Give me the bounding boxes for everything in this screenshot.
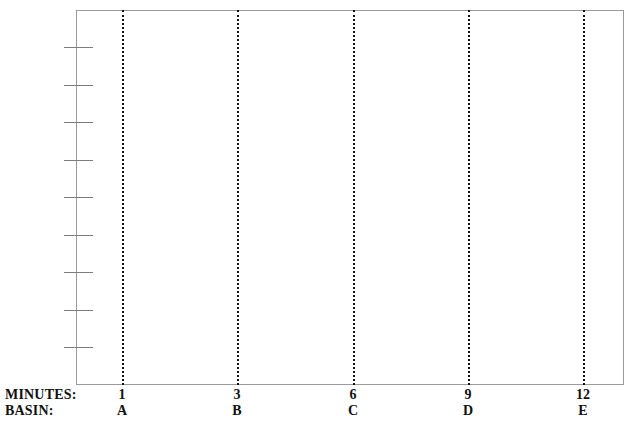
vertical-gridline [468, 10, 470, 385]
y-axis-tick [64, 47, 93, 48]
y-axis-tick [64, 122, 93, 123]
y-axis-tick [64, 272, 93, 273]
y-axis-tick [64, 160, 93, 161]
x-axis-label-block: MINUTES: BASIN: 1A3B6C9D12E [0, 387, 642, 427]
minutes-tick-label: 9 [448, 387, 488, 403]
chart-figure: MINUTES: BASIN: 1A3B6C9D12E [0, 0, 642, 436]
minutes-tick-label: 6 [333, 387, 373, 403]
vertical-gridline [353, 10, 355, 385]
minutes-tick-label: 3 [217, 387, 257, 403]
basin-tick-label: A [102, 403, 142, 419]
basin-tick-label: B [217, 403, 257, 419]
plot-area [76, 10, 624, 385]
minutes-row-label: MINUTES: [5, 387, 77, 403]
y-axis-tick [64, 197, 93, 198]
y-axis-tick [64, 347, 93, 348]
y-axis-tick [64, 85, 93, 86]
y-axis-tick [64, 235, 93, 236]
y-axis-tick [64, 310, 93, 311]
vertical-gridline [583, 10, 585, 385]
basin-row-label: BASIN: [5, 403, 54, 419]
minutes-tick-label: 12 [563, 387, 603, 403]
basin-tick-label: D [448, 403, 488, 419]
vertical-gridline [237, 10, 239, 385]
vertical-gridline [122, 10, 124, 385]
minutes-tick-label: 1 [102, 387, 142, 403]
basin-tick-label: C [333, 403, 373, 419]
basin-tick-label: E [563, 403, 603, 419]
